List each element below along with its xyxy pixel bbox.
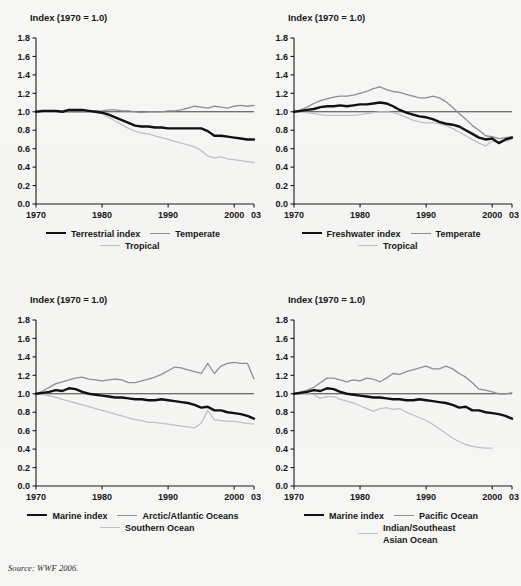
legend-item-third: Tropical xyxy=(100,240,160,252)
svg-text:1.2: 1.2 xyxy=(275,371,288,381)
legend-swatch-mid-icon xyxy=(394,515,414,516)
svg-text:1990: 1990 xyxy=(158,210,178,220)
plot-area-marine-pacific: 0.00.20.40.60.81.01.21.41.61.81970198019… xyxy=(262,306,520,506)
legend-label-second: Temperate xyxy=(175,228,220,240)
legend-swatch-main-icon xyxy=(304,514,324,516)
svg-text:1980: 1980 xyxy=(92,492,112,502)
svg-text:0.8: 0.8 xyxy=(275,125,288,135)
svg-text:1970: 1970 xyxy=(26,492,46,502)
svg-text:0.8: 0.8 xyxy=(275,407,288,417)
legend-swatch-light-icon xyxy=(100,527,120,528)
svg-text:0.4: 0.4 xyxy=(275,162,288,172)
chart-panel-marine-polar: Index (1970 = 1.0) 0.00.20.40.60.81.01.2… xyxy=(4,288,262,570)
svg-text:1.4: 1.4 xyxy=(17,70,30,80)
plot-area-freshwater: 0.00.20.40.60.81.01.21.41.61.81970198019… xyxy=(262,24,520,224)
svg-text:1970: 1970 xyxy=(284,492,304,502)
svg-text:2000: 2000 xyxy=(482,210,502,220)
svg-text:03: 03 xyxy=(509,210,519,220)
legend-swatch-light-icon xyxy=(358,245,378,246)
legend-item-third: Tropical xyxy=(358,240,418,252)
svg-text:1.6: 1.6 xyxy=(17,334,30,344)
panel-axis-title: Index (1970 = 1.0) xyxy=(30,294,107,305)
svg-text:0.0: 0.0 xyxy=(17,481,30,491)
legend-item-main: Marine index xyxy=(27,510,107,522)
svg-text:1990: 1990 xyxy=(416,492,436,502)
svg-text:2000: 2000 xyxy=(224,492,244,502)
legend-label-second: Temperate xyxy=(436,228,481,240)
svg-text:1990: 1990 xyxy=(416,210,436,220)
svg-text:1.8: 1.8 xyxy=(17,315,30,325)
svg-text:0.2: 0.2 xyxy=(275,463,288,473)
chart-panel-marine-pacific: Index (1970 = 1.0) 0.00.20.40.60.81.01.2… xyxy=(262,288,520,570)
plot-svg-terrestrial: 0.00.20.40.60.81.01.21.41.61.81970198019… xyxy=(4,24,262,224)
legend-label-third: Tropical xyxy=(383,240,418,252)
figure-container: Index (1970 = 1.0) 0.00.20.40.60.81.01.2… xyxy=(0,0,521,586)
svg-text:0.6: 0.6 xyxy=(17,426,30,436)
panel-axis-title: Index (1970 = 1.0) xyxy=(30,12,107,23)
svg-text:1990: 1990 xyxy=(158,492,178,502)
legend-label-main: Marine index xyxy=(52,510,107,522)
legend-swatch-mid-icon xyxy=(411,233,431,234)
legend-marine-polar: Marine index Arctic/Atlantic Oceans Sout… xyxy=(4,510,262,534)
svg-text:0.2: 0.2 xyxy=(275,181,288,191)
legend-label-main: Terrestrial index xyxy=(71,228,140,240)
svg-text:03: 03 xyxy=(251,210,261,220)
svg-text:1.6: 1.6 xyxy=(17,52,30,62)
panel-axis-title: Index (1970 = 1.0) xyxy=(288,12,365,23)
svg-text:1.4: 1.4 xyxy=(275,70,288,80)
svg-text:03: 03 xyxy=(509,492,519,502)
legend-swatch-light-icon xyxy=(358,533,378,534)
svg-text:1980: 1980 xyxy=(350,492,370,502)
legend-terrestrial: Terrestrial index Temperate Tropical xyxy=(4,228,262,252)
svg-text:0.0: 0.0 xyxy=(17,199,30,209)
svg-text:1.0: 1.0 xyxy=(17,389,30,399)
svg-text:1970: 1970 xyxy=(26,210,46,220)
legend-marine-pacific: Marine index Pacific Ocean Indian/Southe… xyxy=(262,510,520,546)
svg-text:1.8: 1.8 xyxy=(17,33,30,43)
legend-item-second: Pacific Ocean xyxy=(394,510,478,522)
svg-text:1.6: 1.6 xyxy=(275,52,288,62)
plot-area-terrestrial: 0.00.20.40.60.81.01.21.41.61.81970198019… xyxy=(4,24,262,224)
svg-text:1970: 1970 xyxy=(284,210,304,220)
legend-item-second: Arctic/Atlantic Oceans xyxy=(117,510,238,522)
svg-text:1980: 1980 xyxy=(92,210,112,220)
legend-item-third: Indian/Southeast Asian Ocean xyxy=(358,522,479,546)
svg-text:1980: 1980 xyxy=(350,210,370,220)
svg-text:0.4: 0.4 xyxy=(17,444,30,454)
legend-swatch-main-icon xyxy=(27,514,47,516)
svg-text:1.4: 1.4 xyxy=(275,352,288,362)
svg-text:0.2: 0.2 xyxy=(17,463,30,473)
svg-text:0.6: 0.6 xyxy=(275,144,288,154)
svg-text:1.2: 1.2 xyxy=(275,89,288,99)
svg-text:1.0: 1.0 xyxy=(275,389,288,399)
svg-text:1.0: 1.0 xyxy=(17,107,30,117)
legend-swatch-mid-icon xyxy=(150,233,170,234)
legend-freshwater: Freshwater index Temperate Tropical xyxy=(262,228,520,252)
legend-label-third: Tropical xyxy=(125,240,160,252)
legend-label-main: Freshwater index xyxy=(327,228,401,240)
svg-text:1.8: 1.8 xyxy=(275,33,288,43)
svg-text:0.6: 0.6 xyxy=(17,144,30,154)
svg-text:1.4: 1.4 xyxy=(17,352,30,362)
legend-label-main: Marine index xyxy=(329,510,384,522)
legend-swatch-light-icon xyxy=(100,245,120,246)
legend-item-third: Southern Ocean xyxy=(100,522,195,534)
svg-text:1.8: 1.8 xyxy=(275,315,288,325)
svg-text:0.6: 0.6 xyxy=(275,426,288,436)
legend-label-second: Arctic/Atlantic Oceans xyxy=(142,510,238,522)
svg-text:0.0: 0.0 xyxy=(275,199,288,209)
legend-label-second: Pacific Ocean xyxy=(419,510,478,522)
legend-item-second: Temperate xyxy=(411,228,481,240)
plot-svg-marine-polar: 0.00.20.40.60.81.01.21.41.61.81970198019… xyxy=(4,306,262,506)
source-note: Source: WWF 2006. xyxy=(8,563,79,573)
svg-text:03: 03 xyxy=(251,492,261,502)
legend-item-main: Terrestrial index xyxy=(46,228,140,240)
legend-swatch-main-icon xyxy=(302,232,322,234)
svg-text:0.2: 0.2 xyxy=(17,181,30,191)
panel-axis-title: Index (1970 = 1.0) xyxy=(288,294,365,305)
legend-label-third: Indian/Southeast Asian Ocean xyxy=(383,522,479,546)
svg-text:0.4: 0.4 xyxy=(275,444,288,454)
legend-swatch-mid-icon xyxy=(117,515,137,516)
svg-text:0.0: 0.0 xyxy=(275,481,288,491)
chart-panel-freshwater: Index (1970 = 1.0) 0.00.20.40.60.81.01.2… xyxy=(262,6,520,288)
